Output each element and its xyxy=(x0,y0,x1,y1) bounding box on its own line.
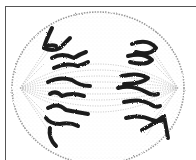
cell-body xyxy=(12,12,184,160)
anaphase-cell-illustration xyxy=(0,0,196,160)
